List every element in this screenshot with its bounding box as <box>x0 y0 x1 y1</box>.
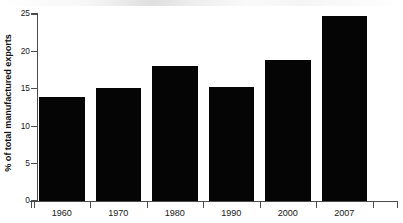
y-tick-label: 25 <box>0 9 30 17</box>
bar <box>322 16 368 201</box>
x-tick-label: 2007 <box>309 208 379 218</box>
y-tick-label: 15 <box>0 84 30 92</box>
x-axis-line <box>30 201 398 202</box>
y-axis-title: % of total manufactured exports <box>0 0 16 205</box>
y-tick-label: 0 <box>0 196 30 204</box>
bar <box>39 97 85 201</box>
y-tick-label: 20 <box>0 47 30 55</box>
y-tick-label: 10 <box>0 122 30 130</box>
y-tick-mark <box>31 126 37 127</box>
y-tick-mark <box>31 88 37 89</box>
bar <box>96 88 142 201</box>
bar <box>265 60 311 201</box>
bar-chart-figure: % of total manufactured exports 25201510… <box>0 0 403 223</box>
bar <box>152 66 198 201</box>
plot-area <box>39 14 395 201</box>
y-tick-mark <box>31 51 37 52</box>
x-tick-mark <box>397 202 398 208</box>
y-tick-mark <box>31 13 37 14</box>
y-tick-mark <box>31 163 37 164</box>
scan-artifact <box>0 0 403 6</box>
y-tick-label: 5 <box>0 159 30 167</box>
bar <box>209 87 255 201</box>
